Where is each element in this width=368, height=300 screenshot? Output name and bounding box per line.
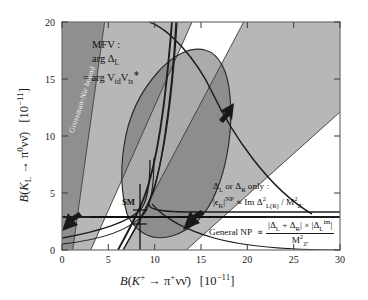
annotation-mfv: MFV : arg ΔL = arg VtdVts∗	[92, 38, 140, 87]
mfv-line-1: MFV :	[92, 38, 140, 52]
num-delta-l: |Δ	[268, 220, 276, 230]
y-k: K	[17, 182, 31, 190]
delta-only-line-1: ΔL or ΔR only :	[213, 180, 303, 194]
num-plus-delta: + Δ	[280, 220, 296, 230]
general-np-fraction: |ΔL + ΔR| × |ΔLim|M2Z′	[266, 219, 334, 248]
x-close-paren: )	[187, 274, 191, 288]
general-np-prop: ∝	[257, 227, 263, 237]
num-delta-im-close: |	[330, 220, 332, 230]
mfv-arg-delta: arg Δ	[92, 53, 115, 64]
prop-im-delta: ∝ Im Δ	[234, 197, 263, 207]
x-tick-label: 10	[150, 254, 160, 265]
y-tick-label: 5	[50, 188, 55, 199]
y-nubar: ν̄	[17, 136, 31, 142]
mfv-v-star: ∗	[133, 69, 140, 78]
y-tick-label: 0	[50, 245, 55, 256]
delta-or: or	[223, 181, 235, 191]
y-tick-label: 15	[45, 74, 55, 85]
y-nu: ν	[17, 142, 31, 148]
x-tick-label: 25	[289, 254, 299, 265]
annotation-general-np: General NP ∝|ΔL + ΔR| × |ΔLim|M2Z′	[209, 219, 334, 248]
y-tick-label: 10	[45, 131, 55, 142]
x-cal-b: B	[120, 274, 128, 288]
annotation-delta-only: ΔL or ΔR only : |ϵK|NP ∝ Im Δ2L(R) / M2Z…	[213, 180, 303, 211]
x-axis-label: B(K+ → π+νν̄)[10−11]	[120, 272, 234, 289]
x-tick-label: 0	[60, 254, 65, 265]
num-delta-im-sub: L	[319, 225, 323, 232]
x-unit-exp: −11	[217, 272, 231, 282]
mfv-line-2: arg ΔL	[92, 52, 140, 69]
y-tick-labels: 0 5 10 15 20	[45, 17, 55, 256]
x-tick-label: 5	[106, 254, 111, 265]
delta-only-tail: only :	[246, 181, 269, 191]
den-m-sub: Z′	[303, 240, 308, 247]
x-tick-label: 15	[196, 254, 206, 265]
general-np-numerator: |ΔL + ΔR| × |ΔLim|	[266, 219, 334, 234]
y-unit: [10	[17, 106, 31, 123]
y-tick-label: 20	[45, 17, 55, 28]
x-tick-label: 20	[242, 254, 252, 265]
y-open-paren: (	[17, 191, 31, 195]
x-unit: [10	[200, 274, 217, 288]
y-unit-exp: −11	[15, 92, 25, 106]
x-tick-labels: 0 5 10 15 20 25 30	[60, 254, 346, 265]
y-axis-label: B(KL → π0νν̄)[10−11]	[15, 45, 34, 245]
divide-m: / M	[279, 197, 294, 207]
epsilon-np-sup: NP	[225, 195, 233, 202]
y-pi: π	[17, 152, 31, 158]
y-cal-b: B	[17, 195, 31, 203]
y-k-sub: L	[23, 177, 33, 183]
mfv-arg-v: = arg V	[83, 72, 115, 83]
delta-lr-sub: L(R)	[266, 202, 279, 209]
num-times: ×	[302, 220, 312, 230]
y-close-paren: )	[17, 132, 31, 136]
y-unit-close: ]	[17, 88, 31, 92]
plot-figure: 0 5 10 15 20 25 30 0 5 10 15 20 Grossman…	[0, 0, 368, 300]
x-k: K	[132, 274, 140, 288]
y-pi-sup: 0	[15, 147, 25, 152]
general-np-denominator: M2Z′	[266, 234, 334, 248]
delta-only-line-2: |ϵK|NP ∝ Im Δ2L(R) / M2Z′	[213, 194, 303, 210]
general-np-label: General NP	[209, 227, 252, 237]
plot-canvas: 0 5 10 15 20 25 30 0 5 10 15 20	[0, 0, 368, 300]
m-zprime-sub: Z′	[297, 202, 302, 209]
y-arrow: →	[17, 158, 31, 177]
sm-point-label: SM	[122, 197, 135, 207]
den-m: M	[292, 235, 300, 245]
mfv-line-3: = arg VtdVts∗	[83, 69, 140, 87]
x-tick-label: 30	[335, 254, 345, 265]
x-unit-close: ]	[230, 274, 234, 288]
x-arrow: →	[145, 274, 164, 288]
mfv-delta-sub: L	[115, 59, 120, 68]
